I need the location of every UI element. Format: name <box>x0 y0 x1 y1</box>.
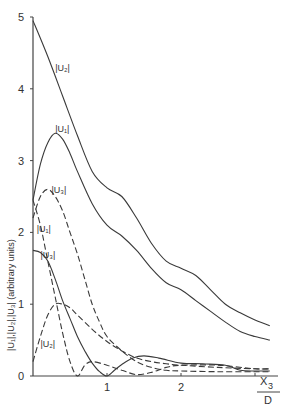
series-line-2 <box>33 189 270 371</box>
series-line-1 <box>33 133 270 340</box>
y-tick-label: 0 <box>18 370 24 382</box>
curve-label-0: |U₂| <box>55 63 70 73</box>
y-axis-title: |U₁|,|U₂|,|U₃| (arbitrary units) <box>6 239 16 351</box>
series-line-5 <box>33 303 270 369</box>
series-group <box>33 21 270 376</box>
series-line-4 <box>33 250 270 376</box>
curve-label-1: |U₁| <box>55 124 69 134</box>
curve-label-2: |U₃| <box>52 185 67 195</box>
curve-label-3: |U₁| <box>37 224 51 234</box>
y-ticks: 012345 <box>18 11 33 382</box>
x-axis-title: X 3 D <box>257 375 280 406</box>
x-axis-title-denominator: D <box>264 394 272 406</box>
x-axis-title-subscript: 3 <box>268 381 273 391</box>
y-tick-label: 2 <box>18 226 24 238</box>
x-axis-title-numerator: X <box>260 375 268 387</box>
y-tick-label: 4 <box>18 83 24 95</box>
y-tick-label: 3 <box>18 155 24 167</box>
curve-label-5: |U₂| <box>40 339 55 349</box>
line-chart: 012345 12 |U₂||U₁||U₃||U₁||U₃||U₂| |U₁|,… <box>0 0 286 407</box>
y-tick-label: 5 <box>18 11 24 23</box>
x-tick-label: 2 <box>178 381 184 393</box>
x-tick-label: 1 <box>104 381 110 393</box>
y-tick-label: 1 <box>18 298 24 310</box>
curve-label-4: |U₃| <box>40 250 55 260</box>
